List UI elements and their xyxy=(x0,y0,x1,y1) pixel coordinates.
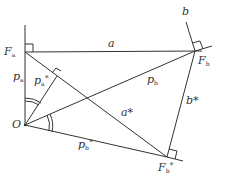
label-o: O xyxy=(12,118,21,131)
right-angle-foot xyxy=(52,68,61,73)
angle-arc-upper-1 xyxy=(25,101,39,105)
label-a: a xyxy=(108,37,115,50)
label-pb-star: pb* xyxy=(78,138,93,151)
line-a xyxy=(25,51,202,52)
geometry-diagram: Fa Fb Fb* O a b b* a* pa pa* pb pb* xyxy=(0,0,225,181)
label-pb: pb xyxy=(147,73,158,86)
label-fb-star: Fb* xyxy=(157,161,173,174)
angle-arc-lower-2 xyxy=(50,114,53,132)
line-b-ext xyxy=(195,46,212,51)
right-angle-fa xyxy=(25,44,33,52)
point-o xyxy=(24,124,26,126)
line-b xyxy=(186,22,195,51)
label-b-star: b* xyxy=(186,94,199,107)
label-pa: pa xyxy=(13,70,24,83)
label-a-star: a* xyxy=(121,106,134,119)
label-b: b xyxy=(182,5,189,18)
label-fb: Fb xyxy=(197,54,210,67)
label-pa-star: pa* xyxy=(34,74,49,87)
angle-arc-lower-1 xyxy=(47,115,50,131)
label-fa: Fa xyxy=(3,45,16,58)
